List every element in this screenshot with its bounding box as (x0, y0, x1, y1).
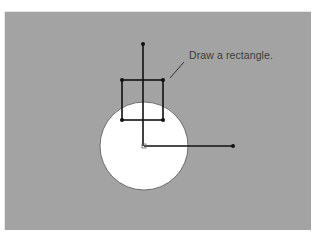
annotation-leader-line (170, 62, 184, 78)
rectangle-corner-handle[interactable] (120, 118, 124, 122)
rectangle-corner-handle[interactable] (120, 78, 124, 82)
diagram-shapes (0, 0, 316, 232)
rectangle-corner-handle[interactable] (161, 78, 165, 82)
annotation-label: Draw a rectangle. (189, 49, 273, 61)
rectangle-corner-handle[interactable] (161, 118, 165, 122)
right-endpoint-handle[interactable] (231, 144, 235, 148)
diagram-canvas: Draw a rectangle. (0, 0, 316, 232)
top-endpoint-handle[interactable] (141, 42, 145, 46)
